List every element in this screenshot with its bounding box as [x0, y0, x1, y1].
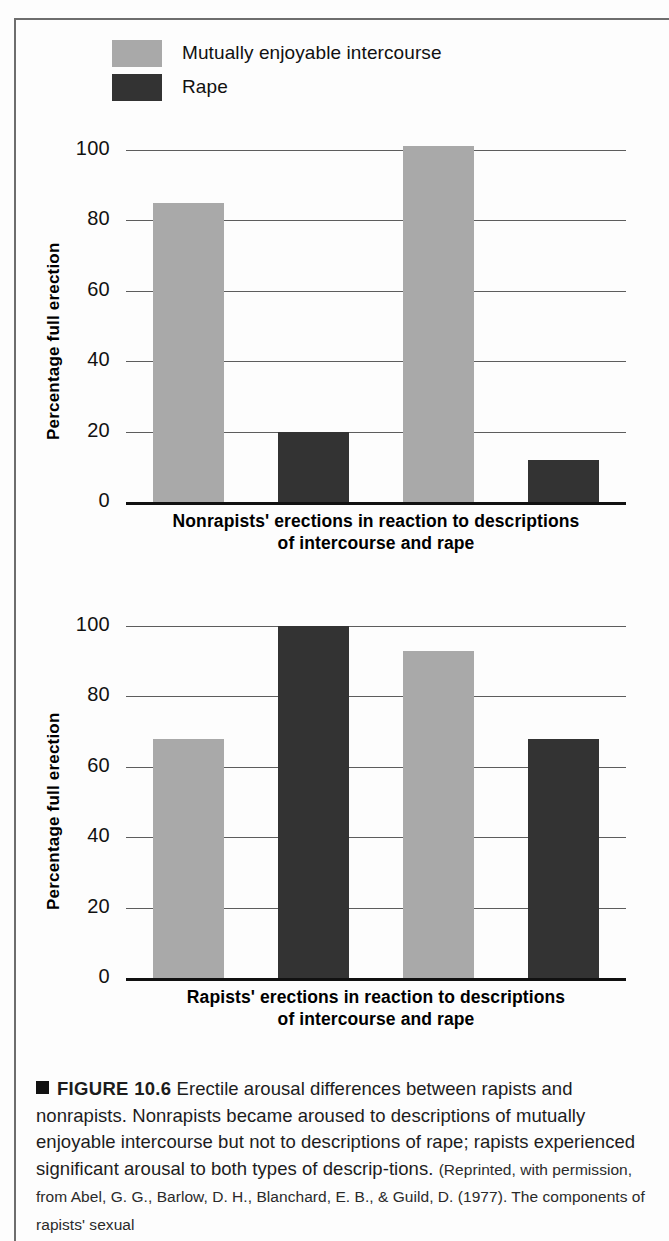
- plot-area-nonrapists: 020406080100Nonrapists' erections in rea…: [126, 150, 626, 502]
- gridline-100: [126, 626, 626, 627]
- caption-bullet-icon: [36, 1081, 49, 1094]
- y-tick-60: 60: [54, 754, 110, 777]
- bar-nonrapists-1: [278, 432, 349, 502]
- bar-rapists-1: [278, 626, 349, 978]
- x-axis-title-line2: of intercourse and rape: [66, 532, 669, 554]
- y-axis-label-bottom: Percentage full erection: [44, 712, 64, 910]
- figure-caption: FIGURE 10.6 Erectile arousal differences…: [36, 1076, 651, 1238]
- y-tick-80: 80: [54, 683, 110, 706]
- y-tick-100: 100: [54, 137, 110, 160]
- plot-area-rapists: 020406080100Rapists' erections in reacti…: [126, 626, 626, 978]
- bar-nonrapists-0: [153, 203, 224, 502]
- bar-rapists-3: [528, 739, 599, 978]
- y-axis-label-top: Percentage full erection: [44, 242, 64, 440]
- caption-figure-number: FIGURE 10.6: [57, 1078, 171, 1099]
- x-axis-title-nonrapists: Nonrapists' erections in reaction to des…: [66, 510, 669, 554]
- gridline-100: [126, 150, 626, 151]
- y-tick-20: 20: [54, 419, 110, 442]
- bar-rapists-2: [403, 651, 474, 978]
- bar-rapists-0: [153, 739, 224, 978]
- y-tick-20: 20: [54, 895, 110, 918]
- x-axis-title-line2: of intercourse and rape: [66, 1008, 669, 1030]
- y-tick-40: 40: [54, 824, 110, 847]
- y-tick-80: 80: [54, 207, 110, 230]
- gridline-80: [126, 696, 626, 697]
- y-tick-100: 100: [54, 613, 110, 636]
- chart-nonrapists: Percentage full erection 020406080100Non…: [0, 0, 669, 560]
- bar-nonrapists-3: [528, 460, 599, 502]
- y-tick-0: 0: [54, 965, 110, 988]
- x-axis-title-line1: Rapists' erections in reaction to descri…: [66, 986, 669, 1008]
- y-tick-0: 0: [54, 489, 110, 512]
- figure-10-6: Mutually enjoyable intercourse Rape Perc…: [0, 0, 669, 1241]
- x-axis-title-line1: Nonrapists' erections in reaction to des…: [66, 510, 669, 532]
- x-axis-line: [126, 978, 626, 981]
- bar-nonrapists-2: [403, 146, 474, 502]
- x-axis-title-rapists: Rapists' erections in reaction to descri…: [66, 986, 669, 1030]
- y-tick-60: 60: [54, 278, 110, 301]
- chart-rapists: Percentage full erection 020406080100Rap…: [0, 560, 669, 1070]
- y-tick-40: 40: [54, 348, 110, 371]
- x-axis-line: [126, 502, 626, 505]
